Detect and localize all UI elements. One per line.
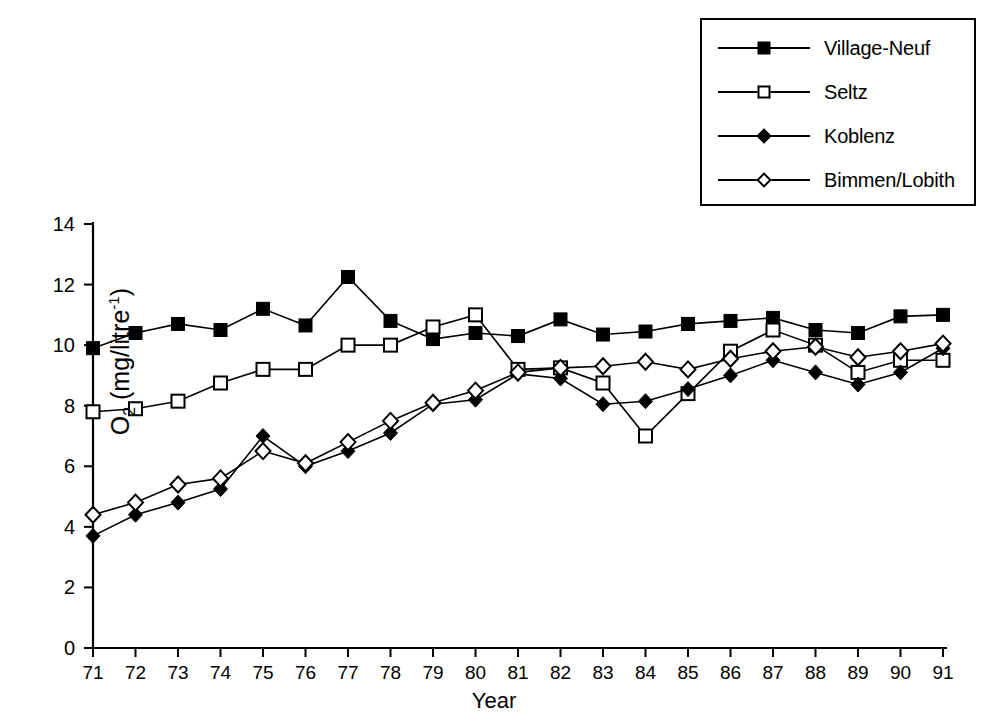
data-point-filled-square-icon [554,313,567,326]
legend-marker-open-square [716,82,812,102]
y-axis-tick-label: 6 [35,456,75,476]
legend-marker-open-diamond [716,170,812,190]
x-axis-tick-label: 75 [243,663,283,682]
y-axis-title: O2 (mg/litre-1) [105,232,138,492]
x-axis-tick-label: 73 [158,663,198,682]
data-point-open-square-icon [427,320,440,333]
data-point-filled-diamond-icon [724,368,738,383]
data-point-open-diamond-icon [86,507,101,523]
x-axis-tick-label: 89 [838,663,878,682]
x-axis-tick-label: 84 [626,663,666,682]
data-point-filled-square-icon [172,317,185,330]
x-axis-tick-label: 79 [413,663,453,682]
x-axis-tick-label: 83 [583,663,623,682]
series-bimmen-lobith [86,336,951,523]
data-point-open-diamond-icon [681,361,696,377]
data-point-open-diamond-icon [213,470,228,486]
data-point-filled-diamond-icon [596,397,610,412]
y-axis-tick-label: 4 [35,517,75,537]
data-point-open-diamond-icon [638,354,653,370]
legend-entry-koblenz[interactable]: Koblenz [702,116,974,156]
legend-label-seltz: Seltz [824,82,867,102]
data-point-open-square-icon [214,377,227,390]
y-axis-title-sup: -1 [105,296,122,309]
data-point-filled-square-icon [257,302,270,315]
x-axis-tick-label: 87 [753,663,793,682]
data-point-open-square-icon [469,308,482,321]
data-point-open-diamond-icon [851,349,866,365]
data-point-open-square-icon [257,363,270,376]
x-axis-tick-label: 77 [328,663,368,682]
chart-figure: O2 (mg/litre-1) Year 02468101214 7172737… [0,0,988,723]
x-axis-tick-label: 90 [881,663,921,682]
data-point-open-diamond-icon [766,343,781,359]
data-point-filled-diamond-icon [171,495,185,510]
data-point-open-diamond-icon [128,495,143,511]
data-point-filled-square-icon [852,327,865,340]
data-point-filled-square-icon [767,311,780,324]
data-point-filled-square-icon [512,330,525,343]
x-axis-tick-label: 81 [498,663,538,682]
data-point-filled-square-icon [342,271,355,284]
data-point-open-square-icon [597,377,610,390]
x-axis-tick-label: 72 [116,663,156,682]
y-axis-title-sub: 2 [121,407,138,416]
legend-marker-filled-square [716,38,812,58]
data-point-filled-square-icon [682,317,695,330]
data-point-filled-square-icon [384,314,397,327]
data-point-filled-square-icon [299,319,312,332]
legend-label-koblenz: Koblenz [824,126,895,146]
y-axis-title-unit-open: (mg/litre [106,310,134,407]
x-axis-tick-label: 91 [923,663,963,682]
x-axis-tick-label: 71 [73,663,113,682]
y-axis-title-unit-close: ) [106,288,134,296]
legend: Village-Neuf Seltz Koblenz Bimmen/Lobith [700,18,976,206]
x-axis-tick-label: 80 [456,663,496,682]
data-point-filled-square-icon [809,324,822,337]
data-point-filled-square-icon [87,342,100,355]
data-point-filled-diamond-icon [639,394,653,409]
x-axis-tick-label: 78 [371,663,411,682]
x-axis-tick-label: 82 [541,663,581,682]
data-point-open-square-icon [639,430,652,443]
y-axis-tick-label: 10 [35,335,75,355]
data-point-filled-diamond-icon [809,365,823,380]
data-point-open-diamond-icon [596,358,611,374]
data-point-open-square-icon [172,395,185,408]
y-axis-tick-label: 12 [35,275,75,295]
data-point-filled-square-icon [937,308,950,321]
y-axis-tick-label: 8 [35,396,75,416]
y-axis-title-base: O [106,416,134,435]
data-point-open-square-icon [299,363,312,376]
data-point-open-diamond-icon [256,443,271,459]
data-point-open-square-icon [384,339,397,352]
data-point-open-diamond-icon [341,434,356,450]
data-point-open-diamond-icon [383,413,398,429]
x-axis-tick-label: 86 [711,663,751,682]
y-axis-tick-label: 0 [35,638,75,658]
data-point-filled-square-icon [597,328,610,341]
data-point-filled-square-icon [894,310,907,323]
data-point-filled-square-icon [724,314,737,327]
legend-entry-village-neuf[interactable]: Village-Neuf [702,28,974,68]
x-axis-tick-label: 85 [668,663,708,682]
x-axis-tick-label: 74 [201,663,241,682]
legend-entry-seltz[interactable]: Seltz [702,72,974,112]
y-axis-tick-label: 14 [35,214,75,234]
data-point-filled-square-icon [639,325,652,338]
x-axis-title: Year [0,688,988,714]
data-point-filled-square-icon [469,327,482,340]
data-point-filled-square-icon [427,333,440,346]
data-point-open-square-icon [767,324,780,337]
legend-entry-bimmen-lobith[interactable]: Bimmen/Lobith [702,160,974,200]
legend-marker-filled-diamond [716,126,812,146]
data-point-open-diamond-icon [171,477,186,493]
data-point-filled-diamond-icon [86,528,100,543]
x-axis-tick-label: 76 [286,663,326,682]
x-axis-tick-label: 88 [796,663,836,682]
data-point-filled-square-icon [214,324,227,337]
legend-label-bimmen-lobith: Bimmen/Lobith [824,170,955,190]
y-axis-tick-label: 2 [35,577,75,597]
data-point-open-square-icon [342,339,355,352]
legend-label-village-neuf: Village-Neuf [824,38,930,58]
